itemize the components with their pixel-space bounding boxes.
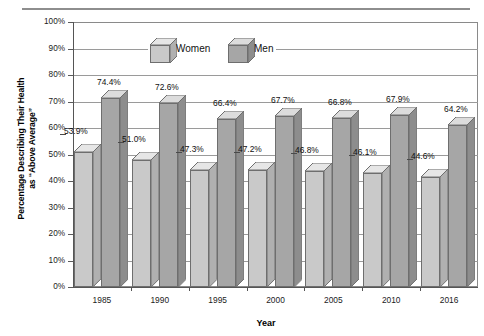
bar-men-2016 <box>448 117 467 287</box>
y-axis-tick-label: 100% <box>25 17 65 26</box>
y-axis-tick-label: 50% <box>25 150 65 159</box>
x-axis-title-text: Year <box>256 318 275 328</box>
leader-line-women-2016 <box>407 159 413 160</box>
data-label-men-2000: 67.7% <box>271 95 295 105</box>
bar-front-face <box>159 103 178 287</box>
bar-women-2016 <box>421 169 440 287</box>
bar-side-face <box>236 111 244 287</box>
bar-front-face <box>332 118 351 287</box>
x-axis-line <box>73 287 478 288</box>
x-axis-tick-label-1990: 1990 <box>132 295 188 305</box>
leader-line-women-1995 <box>176 152 182 153</box>
x-axis-title: Year <box>0 318 484 328</box>
legend-swatch-men <box>228 38 255 63</box>
data-label-women-2010: 46.1% <box>353 147 377 157</box>
bar-men-1985 <box>101 90 120 287</box>
x-axis-tick-label-2005: 2005 <box>305 295 361 305</box>
bar-men-2000 <box>275 108 294 287</box>
bar-women-1995 <box>190 162 209 287</box>
bar-side-face <box>209 162 217 287</box>
data-label-men-2016: 64.2% <box>444 104 468 114</box>
data-label-men-1990: 72.6% <box>155 82 179 92</box>
bar-men-1990 <box>159 95 178 287</box>
data-label-men-1995: 66.4% <box>213 98 237 108</box>
bar-women-1990 <box>132 152 151 287</box>
data-label-women-1985: 53.9% <box>64 126 88 136</box>
x-axis-tick-mark <box>131 287 132 291</box>
bar-front-face <box>248 170 267 287</box>
x-axis-tick-label-2016: 2016 <box>421 295 477 305</box>
bar-men-1995 <box>217 111 236 287</box>
bar-side-face <box>440 169 448 287</box>
bar-women-2010 <box>363 165 382 287</box>
legend-label-women: Women <box>176 43 210 54</box>
bar-side-face <box>324 163 332 287</box>
x-axis-tick-label-1985: 1985 <box>74 295 130 305</box>
bar-front-face <box>217 119 236 287</box>
data-label-women-2016: 44.6% <box>411 151 435 161</box>
bar-women-2000 <box>248 162 267 287</box>
y-axis-tick-label: 20% <box>25 229 65 238</box>
bar-side-face <box>409 107 417 287</box>
bar-side-face <box>382 165 390 287</box>
bar-front-face <box>448 125 467 287</box>
data-label-men-2005: 66.8% <box>328 97 352 107</box>
bar-front-face <box>305 171 324 287</box>
data-label-men-1985: 74.4% <box>97 77 121 87</box>
x-axis-tick-label-2010: 2010 <box>363 295 419 305</box>
bar-side-face <box>351 110 359 287</box>
data-label-women-1990: 51.0% <box>122 134 146 144</box>
legend-label-men: Men <box>254 43 273 54</box>
y-axis-tick-label: 10% <box>25 256 65 265</box>
y-axis-tick-label: 90% <box>25 44 65 53</box>
bar-women-1985 <box>74 144 93 287</box>
bar-men-2010 <box>390 107 409 287</box>
bar-side-face <box>294 108 302 287</box>
leader-line-women-1985 <box>60 134 66 135</box>
bar-side-face <box>93 144 101 287</box>
bar-side-face <box>151 152 159 287</box>
leader-line-women-2010 <box>349 155 355 156</box>
data-label-women-2000: 47.2% <box>238 144 262 154</box>
bar-front-face <box>132 160 151 287</box>
bar-front-face <box>190 170 209 287</box>
bar-side-face <box>267 162 275 287</box>
bar-side-face <box>120 90 128 287</box>
data-label-women-2005: 46.8% <box>295 145 319 155</box>
data-label-women-1995: 47.3% <box>180 144 204 154</box>
bar-front-face <box>74 152 93 287</box>
x-axis-tick-label-1995: 1995 <box>190 295 246 305</box>
y-axis-tick-label: 0% <box>25 282 65 291</box>
bar-side-face <box>178 95 186 287</box>
legend-swatch-women <box>150 38 177 63</box>
bar-women-2005 <box>305 163 324 287</box>
y-axis-tick-label: 80% <box>25 70 65 79</box>
bar-front-face <box>363 173 382 287</box>
data-label-men-2010: 67.9% <box>386 94 410 104</box>
x-axis-tick-mark <box>247 287 248 291</box>
y-axis-tick-label: 30% <box>25 203 65 212</box>
bar-front-face <box>421 177 440 287</box>
bar-side-face <box>467 117 475 287</box>
y-axis-tick-label: 60% <box>25 123 65 132</box>
leader-line-women-1990 <box>118 142 124 143</box>
bar-chart: Percentage Describing Their Health as “A… <box>0 0 484 336</box>
x-axis-tick-mark <box>189 287 190 291</box>
bar-front-face <box>275 116 294 287</box>
y-axis-tick-label: 70% <box>25 97 65 106</box>
bar-men-2005 <box>332 110 351 287</box>
x-axis-tick-label-2000: 2000 <box>248 295 304 305</box>
leader-line-women-2000 <box>234 152 240 153</box>
leader-line-women-2005 <box>291 153 297 154</box>
x-axis-tick-mark <box>304 287 305 291</box>
top-divider-rule <box>22 8 470 10</box>
gridline <box>73 75 478 76</box>
bar-front-face <box>101 98 120 287</box>
x-axis-tick-mark <box>362 287 363 291</box>
x-axis-tick-mark <box>420 287 421 291</box>
y-axis-tick-label: 40% <box>25 176 65 185</box>
bar-front-face <box>390 115 409 287</box>
